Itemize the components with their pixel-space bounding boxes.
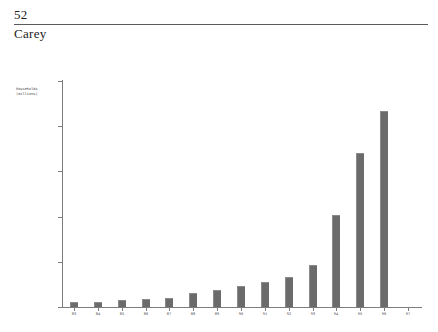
y-tick-mark: [58, 81, 62, 82]
bar: [237, 286, 245, 307]
bar: [213, 290, 221, 307]
x-tick-mark: [408, 307, 409, 311]
y-axis-title-line: (millions): [16, 92, 62, 97]
y-tick-label-wrap: 5: [0, 262, 56, 263]
x-tick-label: 83: [66, 312, 82, 316]
bar: [380, 111, 388, 307]
x-tick-label: 86: [138, 312, 154, 316]
y-axis-title: Households(millions): [16, 87, 62, 96]
y-tick-label-wrap: 0: [0, 307, 56, 308]
x-tick-mark: [122, 307, 123, 311]
bar: [189, 293, 197, 307]
x-tick-mark: [313, 307, 314, 311]
bar: [142, 299, 150, 307]
y-tick-mark: [58, 171, 62, 172]
x-tick-label: 94: [328, 312, 344, 316]
y-tick-mark: [58, 262, 62, 263]
x-tick-mark: [146, 307, 147, 311]
bar: [356, 153, 364, 307]
x-tick-mark: [336, 307, 337, 311]
x-tick-label: 93: [305, 312, 321, 316]
y-tick-label-wrap: 15: [0, 171, 56, 172]
bar-chart-figure: Households(millions) 0510152025 83848586…: [0, 0, 438, 332]
bar: [332, 215, 340, 307]
x-tick-label: 97: [400, 312, 416, 316]
x-tick-mark: [384, 307, 385, 311]
bar: [261, 282, 269, 307]
x-tick-mark: [217, 307, 218, 311]
x-tick-mark: [289, 307, 290, 311]
x-axis-line: [62, 307, 422, 308]
bar: [165, 298, 173, 307]
x-tick-mark: [74, 307, 75, 311]
x-tick-label: 84: [90, 312, 106, 316]
y-tick-mark: [58, 126, 62, 127]
y-axis-line: [62, 80, 63, 308]
x-tick-label: 92: [281, 312, 297, 316]
y-tick-label-wrap: 20: [0, 126, 56, 127]
bar: [94, 302, 102, 307]
x-tick-mark: [98, 307, 99, 311]
y-tick-label-wrap: 10: [0, 217, 56, 218]
bar: [118, 300, 126, 307]
x-tick-label: 89: [209, 312, 225, 316]
x-tick-mark: [360, 307, 361, 311]
plot-area: Households(millions) 0510152025 83848586…: [0, 0, 438, 332]
x-tick-label: 95: [352, 312, 368, 316]
x-tick-label: 90: [233, 312, 249, 316]
x-tick-mark: [193, 307, 194, 311]
y-tick-mark: [58, 307, 62, 308]
x-tick-label: 91: [257, 312, 273, 316]
x-tick-mark: [241, 307, 242, 311]
x-tick-label: 88: [185, 312, 201, 316]
x-tick-label: 85: [114, 312, 130, 316]
bar: [285, 277, 293, 307]
bar: [70, 302, 78, 307]
x-tick-mark: [265, 307, 266, 311]
y-tick-label-wrap: 25: [0, 81, 56, 82]
x-tick-label: 96: [376, 312, 392, 316]
bar: [309, 265, 317, 307]
x-tick-mark: [169, 307, 170, 311]
y-tick-mark: [58, 217, 62, 218]
x-tick-label: 87: [161, 312, 177, 316]
